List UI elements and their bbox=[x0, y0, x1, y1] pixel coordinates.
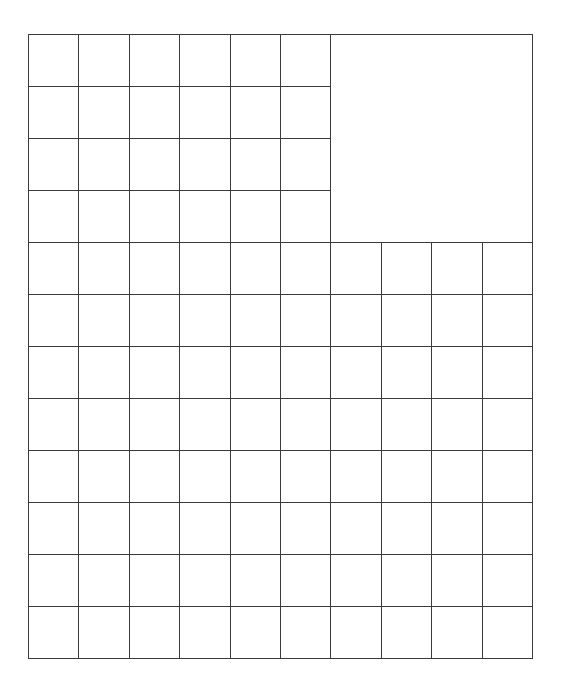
grid-cell bbox=[431, 242, 482, 295]
grid-cell bbox=[280, 138, 331, 191]
grid-cell bbox=[78, 138, 129, 191]
grid-cell bbox=[129, 554, 180, 607]
grid-cell bbox=[129, 450, 180, 503]
grid-cell bbox=[280, 606, 331, 659]
grid-cell bbox=[330, 242, 381, 295]
grid-cell bbox=[179, 190, 230, 243]
grid-cell bbox=[381, 450, 432, 503]
grid-diagram bbox=[28, 34, 533, 659]
grid-cell bbox=[78, 450, 129, 503]
grid-cell bbox=[482, 554, 533, 607]
grid-cell bbox=[230, 34, 281, 87]
grid-cell bbox=[28, 242, 79, 295]
grid-cell bbox=[28, 606, 79, 659]
grid-cell bbox=[482, 398, 533, 451]
grid-cell bbox=[179, 294, 230, 347]
grid-cell bbox=[129, 294, 180, 347]
grid-cell bbox=[381, 554, 432, 607]
grid-cell bbox=[179, 346, 230, 399]
grid-cell bbox=[28, 190, 79, 243]
grid-cell bbox=[78, 294, 129, 347]
grid-cell bbox=[78, 346, 129, 399]
grid-cell bbox=[78, 86, 129, 139]
grid-cell bbox=[230, 190, 281, 243]
grid-cell bbox=[482, 502, 533, 555]
grid-cell bbox=[179, 242, 230, 295]
grid-cell bbox=[129, 606, 180, 659]
grid-cell bbox=[330, 450, 381, 503]
grid-cell bbox=[230, 502, 281, 555]
grid-cell bbox=[230, 346, 281, 399]
grid-cell bbox=[230, 86, 281, 139]
grid-cell bbox=[431, 346, 482, 399]
grid-cell bbox=[280, 502, 331, 555]
grid-cell bbox=[230, 606, 281, 659]
grid-cell bbox=[330, 346, 381, 399]
grid-cell bbox=[78, 34, 129, 87]
grid-cell bbox=[179, 450, 230, 503]
grid-cell bbox=[280, 554, 331, 607]
grid-cell bbox=[78, 398, 129, 451]
grid-cell bbox=[129, 138, 180, 191]
grid-cell bbox=[78, 190, 129, 243]
grid-cell bbox=[179, 502, 230, 555]
grid-cell bbox=[431, 502, 482, 555]
grid-cell bbox=[280, 294, 331, 347]
grid-cell bbox=[381, 606, 432, 659]
grid-cell bbox=[129, 190, 180, 243]
grid-cell bbox=[230, 138, 281, 191]
grid-cell bbox=[78, 242, 129, 295]
grid-cell bbox=[280, 190, 331, 243]
grid-cell bbox=[129, 86, 180, 139]
grid-cell bbox=[330, 502, 381, 555]
grid-cell bbox=[280, 86, 331, 139]
grid-cell bbox=[280, 346, 331, 399]
grid-cell bbox=[28, 554, 79, 607]
grid-cell bbox=[280, 398, 331, 451]
grid-cell bbox=[330, 294, 381, 347]
grid-cell bbox=[482, 294, 533, 347]
grid-cell bbox=[129, 502, 180, 555]
grid-cell bbox=[129, 242, 180, 295]
grid-cell bbox=[431, 398, 482, 451]
grid-cell bbox=[129, 346, 180, 399]
grid-cell bbox=[431, 294, 482, 347]
grid-cell bbox=[330, 554, 381, 607]
grid-cell bbox=[230, 450, 281, 503]
grid-cell bbox=[179, 34, 230, 87]
grid-cell bbox=[230, 554, 281, 607]
grid-cell bbox=[280, 34, 331, 87]
grid-cell bbox=[28, 34, 79, 87]
grid-cell bbox=[78, 554, 129, 607]
grid-cell bbox=[129, 398, 180, 451]
grid-cell bbox=[28, 138, 79, 191]
grid-cell bbox=[28, 398, 79, 451]
grid-cell bbox=[330, 606, 381, 659]
grid-cell bbox=[28, 86, 79, 139]
grid-cell bbox=[28, 294, 79, 347]
grid-cell bbox=[381, 294, 432, 347]
grid-cell bbox=[129, 34, 180, 87]
grid-cell bbox=[381, 502, 432, 555]
grid-cell bbox=[482, 606, 533, 659]
grid-cell bbox=[431, 450, 482, 503]
grid-cell bbox=[482, 242, 533, 295]
grid-cell bbox=[78, 606, 129, 659]
grid-cell bbox=[230, 294, 281, 347]
grid-cell bbox=[28, 502, 79, 555]
grid-cell bbox=[482, 346, 533, 399]
grid-cell bbox=[179, 606, 230, 659]
grid-cell bbox=[28, 450, 79, 503]
grid-cell bbox=[230, 242, 281, 295]
grid-cell bbox=[431, 554, 482, 607]
grid-cell bbox=[381, 242, 432, 295]
grid-cell bbox=[230, 398, 281, 451]
grid-cell bbox=[280, 450, 331, 503]
grid-cell bbox=[179, 554, 230, 607]
grid-cell bbox=[482, 450, 533, 503]
grid-cell bbox=[280, 242, 331, 295]
grid-cell bbox=[78, 502, 129, 555]
grid-cell bbox=[28, 346, 79, 399]
grid-cell bbox=[381, 346, 432, 399]
grid-cell bbox=[330, 398, 381, 451]
